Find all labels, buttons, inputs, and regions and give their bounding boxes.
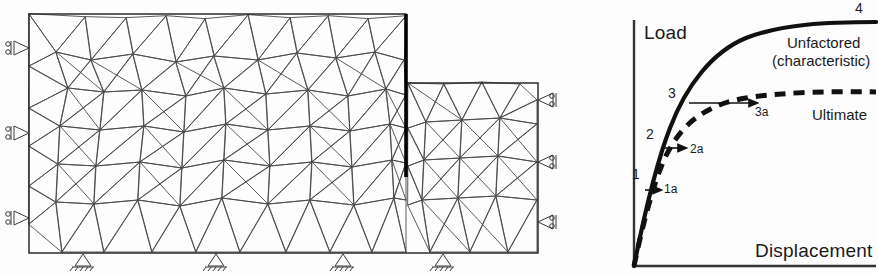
annotation-point-3a: 3a [755, 105, 768, 119]
roller-support-left-1 [6, 41, 29, 55]
roller-support-right-3 [538, 215, 556, 229]
annotation-point-2: 2 [646, 126, 654, 142]
annotation-curve-label-ultimate: Ultimate [812, 106, 867, 123]
roller-support-left-3 [6, 211, 29, 225]
annotation-curve-label-unfactored: Unfactored [787, 34, 860, 51]
annotation-point-1: 1 [632, 166, 640, 182]
load-displacement-chart-panel: Load Displacement 4 Unfactored (characte… [560, 0, 878, 274]
bottom-support-2 [203, 254, 227, 271]
roller-support-right-1 [538, 93, 556, 107]
bottom-support-1 [70, 254, 94, 271]
annotation-curve-label-characteristic: (characteristic) [772, 52, 870, 69]
bottom-support-3 [330, 254, 354, 271]
fem-mesh-svg [0, 0, 560, 274]
roller-support-right-2 [538, 155, 556, 169]
annotation-point-2a: 2a [690, 142, 703, 156]
y-axis-label: Load [644, 22, 687, 44]
annotation-point-3: 3 [668, 85, 676, 101]
right-roller-supports [538, 93, 556, 229]
bottom-support-4 [430, 254, 454, 271]
finite-element-mesh-panel [0, 0, 560, 274]
left-roller-supports [6, 41, 29, 225]
mesh-triangles [29, 14, 537, 252]
roller-support-left-2 [6, 126, 29, 140]
annotation-point-1a: 1a [664, 182, 677, 196]
figure-root: Load Displacement 4 Unfactored (characte… [0, 0, 878, 274]
x-axis-label: Displacement [755, 240, 873, 262]
annotation-point-4: 4 [855, 0, 863, 16]
bottom-supports [70, 254, 454, 271]
